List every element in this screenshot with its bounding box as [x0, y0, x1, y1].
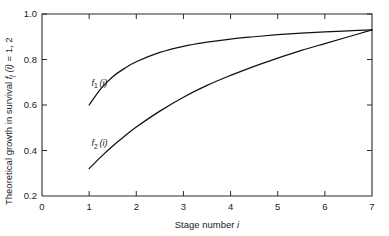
x-tick-label-2: 2 — [134, 201, 139, 212]
y-tick-label-2: 0.6 — [24, 99, 37, 110]
x-tick-label-1: 1 — [86, 201, 91, 212]
chart-background — [0, 0, 389, 236]
x-tick-label-0: 0 — [39, 201, 44, 212]
x-tick-label-4: 4 — [228, 201, 233, 212]
f1-curve-label: f1(i) — [92, 78, 108, 89]
y-tick-label-3: 0.4 — [24, 145, 37, 156]
x-tick-label-5: 5 — [275, 201, 280, 212]
f2-curve-label: f2(i) — [92, 138, 108, 149]
y-tick-label-0: 1.0 — [24, 8, 37, 19]
y-tick-label-1: 0.8 — [24, 54, 37, 65]
x-tick-label-7: 7 — [369, 201, 374, 212]
x-tick-label-3: 3 — [181, 201, 186, 212]
x-tick-label-6: 6 — [322, 201, 327, 212]
chart-canvas: 1.00.80.60.40.2 01234567 f1(i)f2(i) Theo… — [0, 0, 389, 236]
x-axis-title: Stage number i — [175, 219, 240, 230]
svg-text:Stage number i: Stage number i — [175, 219, 240, 230]
y-tick-label-4: 0.2 — [24, 190, 37, 201]
chart-figure: 1.00.80.60.40.2 01234567 f1(i)f2(i) Theo… — [0, 0, 389, 236]
